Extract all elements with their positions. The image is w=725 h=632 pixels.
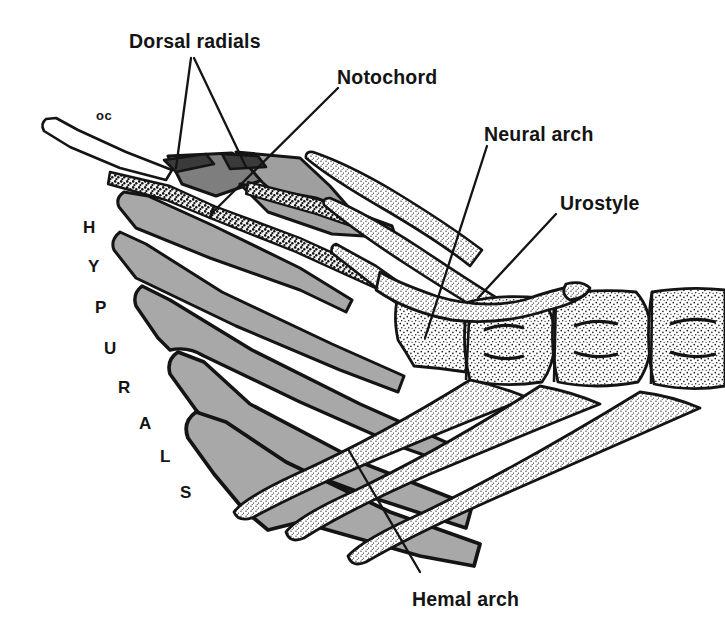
hypurals-letter-1: H (83, 218, 95, 238)
hypurals-letter-8: S (180, 483, 191, 503)
hypurals-letter-7: L (160, 447, 170, 467)
caudal-skeleton-drawing (0, 0, 725, 632)
label-neural-arch: Neural arch (484, 123, 594, 146)
anatomical-figure: Dorsal radials Notochord Neural arch Uro… (0, 0, 725, 632)
hypurals-letter-6: A (139, 414, 151, 434)
hypurals-letter-3: P (95, 298, 106, 318)
centrum-3 (648, 288, 725, 388)
hypurals-letter-2: Y (88, 257, 99, 277)
label-hemal-arch: Hemal arch (412, 588, 519, 611)
centrum-suture-3 (651, 292, 652, 384)
label-urostyle: Urostyle (560, 192, 640, 215)
label-dorsal-radials: Dorsal radials (129, 30, 261, 53)
label-notochord: Notochord (337, 66, 437, 89)
hypurals-letter-5: R (118, 378, 130, 398)
label-oc: oc (96, 108, 112, 123)
hypurals-letter-4: U (104, 339, 116, 359)
